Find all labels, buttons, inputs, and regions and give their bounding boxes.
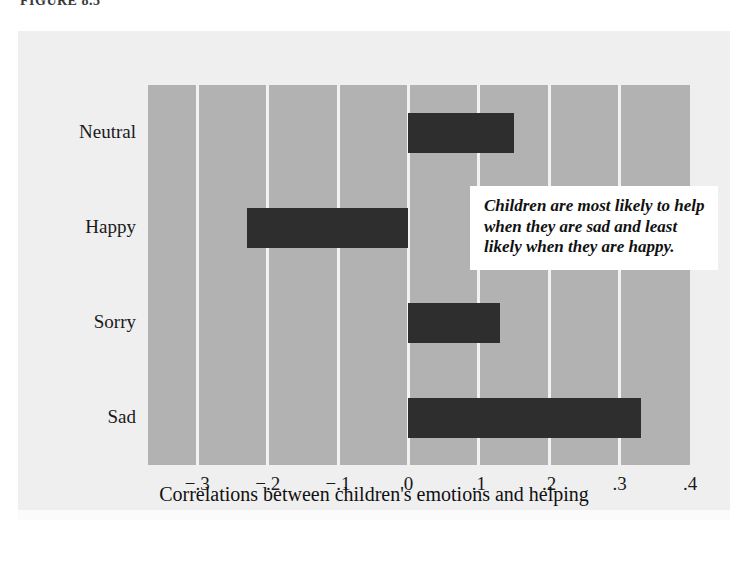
figure-label: FIGURE 8.5 xyxy=(20,0,100,9)
bar-happy xyxy=(247,208,409,248)
category-label-sad: Sad xyxy=(108,406,137,428)
bar-row xyxy=(148,85,690,180)
category-label-sorry: Sorry xyxy=(94,311,136,333)
annotation-callout: Children are most likely to help when th… xyxy=(470,186,718,270)
bar-neutral xyxy=(408,113,514,153)
bar-row xyxy=(148,275,690,370)
figure-panel: NeutralHappySorrySad −.3−.2−.10.1.2.3.4 … xyxy=(18,31,730,520)
category-label-neutral: Neutral xyxy=(79,121,136,143)
category-label-happy: Happy xyxy=(85,216,136,238)
plot-area xyxy=(148,85,690,465)
x-axis-title: Correlations between children's emotions… xyxy=(18,483,730,506)
bar-row xyxy=(148,370,690,465)
bar-sad xyxy=(408,398,640,438)
bar-sorry xyxy=(408,303,500,343)
page-edge xyxy=(18,510,730,520)
